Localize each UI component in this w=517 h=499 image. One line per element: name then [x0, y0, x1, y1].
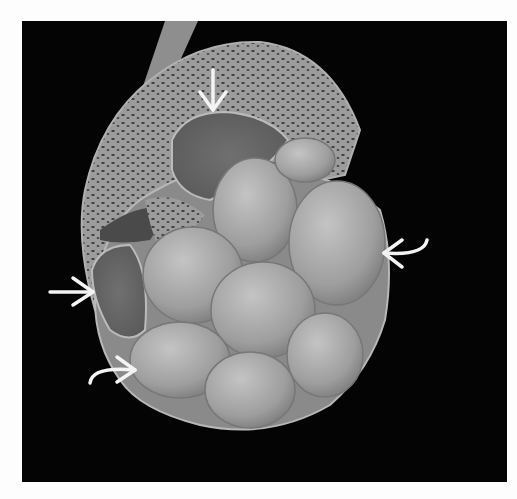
arrow-left-icon: [50, 278, 93, 305]
kidney-illustration: [0, 0, 517, 499]
arrow-right-curved-icon: [384, 240, 427, 267]
